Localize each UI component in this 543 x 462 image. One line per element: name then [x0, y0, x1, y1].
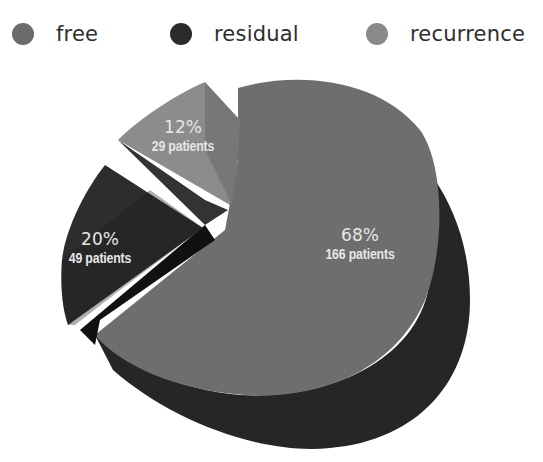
label-free-count: 166 patients	[315, 245, 405, 263]
label-recurrence-percent: 12%	[138, 117, 228, 137]
label-residual: 20% 49 patients	[50, 229, 150, 267]
label-residual-count: 49 patients	[59, 249, 141, 267]
label-free-percent: 68%	[305, 225, 415, 245]
label-residual-percent: 20%	[50, 229, 150, 249]
label-recurrence: 12% 29 patients	[138, 117, 228, 155]
label-free: 68% 166 patients	[305, 225, 415, 263]
label-recurrence-count: 29 patients	[146, 137, 220, 155]
